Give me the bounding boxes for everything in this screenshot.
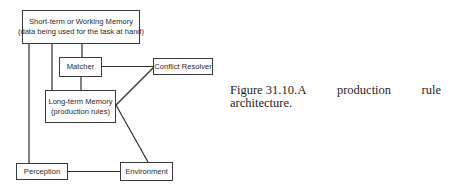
figure-caption: Figure 31.10. A production rule architec… — [230, 84, 441, 110]
long-term-memory-title: Long-term Memory — [48, 97, 112, 107]
environment-label: Environment — [125, 167, 168, 177]
conflict-resolver-label: Conflict Resolver — [154, 62, 211, 72]
caption-word: rule — [422, 84, 441, 97]
caption-word: A — [297, 84, 306, 97]
working-memory-subtitle: (data being used for the task at hand) — [18, 27, 144, 37]
matcher-box: Matcher — [59, 57, 102, 77]
long-term-memory-box: Long-term Memory (production rules) — [45, 90, 116, 123]
perception-box: Perception — [16, 163, 68, 180]
perception-label: Perception — [24, 167, 60, 177]
caption-line-2: architecture. — [230, 97, 441, 110]
long-term-memory-subtitle: (production rules) — [51, 107, 110, 117]
working-memory-title: Short-term or Working Memory — [29, 17, 133, 27]
environment-box: Environment — [120, 162, 173, 181]
caption-word: production — [337, 84, 391, 97]
edge-ltm-environment — [116, 105, 148, 162]
conflict-resolver-box: Conflict Resolver — [153, 58, 213, 75]
matcher-label: Matcher — [67, 62, 94, 72]
working-memory-box: Short-term or Working Memory (data being… — [22, 10, 140, 44]
edge-ltm-conflict — [116, 67, 154, 105]
